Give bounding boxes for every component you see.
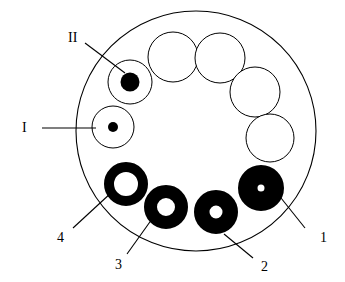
bore-element-I: [92, 106, 134, 148]
label-1: 1: [320, 231, 327, 245]
bore-element-3: [151, 192, 182, 223]
bore-element-2: [202, 198, 231, 227]
bore-empty-1: [148, 32, 198, 82]
label-3: 3: [115, 258, 122, 272]
bore-empty-4: [246, 114, 294, 162]
bore-element-1: [248, 175, 275, 202]
figure-canvas: [0, 0, 345, 282]
bore-outline-empty-1: [148, 32, 198, 82]
bore-element-II: [108, 60, 152, 104]
label-2: 2: [261, 260, 268, 274]
label-4: 4: [57, 231, 64, 245]
bore-outline-empty-3: [230, 67, 280, 117]
leader-3: [127, 219, 152, 254]
bore-annulus-element-3: [151, 192, 182, 223]
label-I: I: [22, 121, 27, 135]
bore-core-dot-element-II: [121, 73, 140, 92]
figure-diagram: III4321: [0, 0, 345, 282]
label-II: II: [68, 31, 77, 45]
bore-core-dot-element-I: [108, 122, 118, 132]
bore-annulus-element-1: [248, 175, 275, 202]
bore-outline-empty-4: [246, 114, 294, 162]
leader-II: [85, 43, 125, 73]
elements-layer: [92, 32, 294, 226]
bore-annulus-element-4: [109, 167, 143, 201]
bore-element-4: [109, 167, 143, 201]
bore-annulus-element-2: [202, 198, 231, 227]
bore-empty-3: [230, 67, 280, 117]
